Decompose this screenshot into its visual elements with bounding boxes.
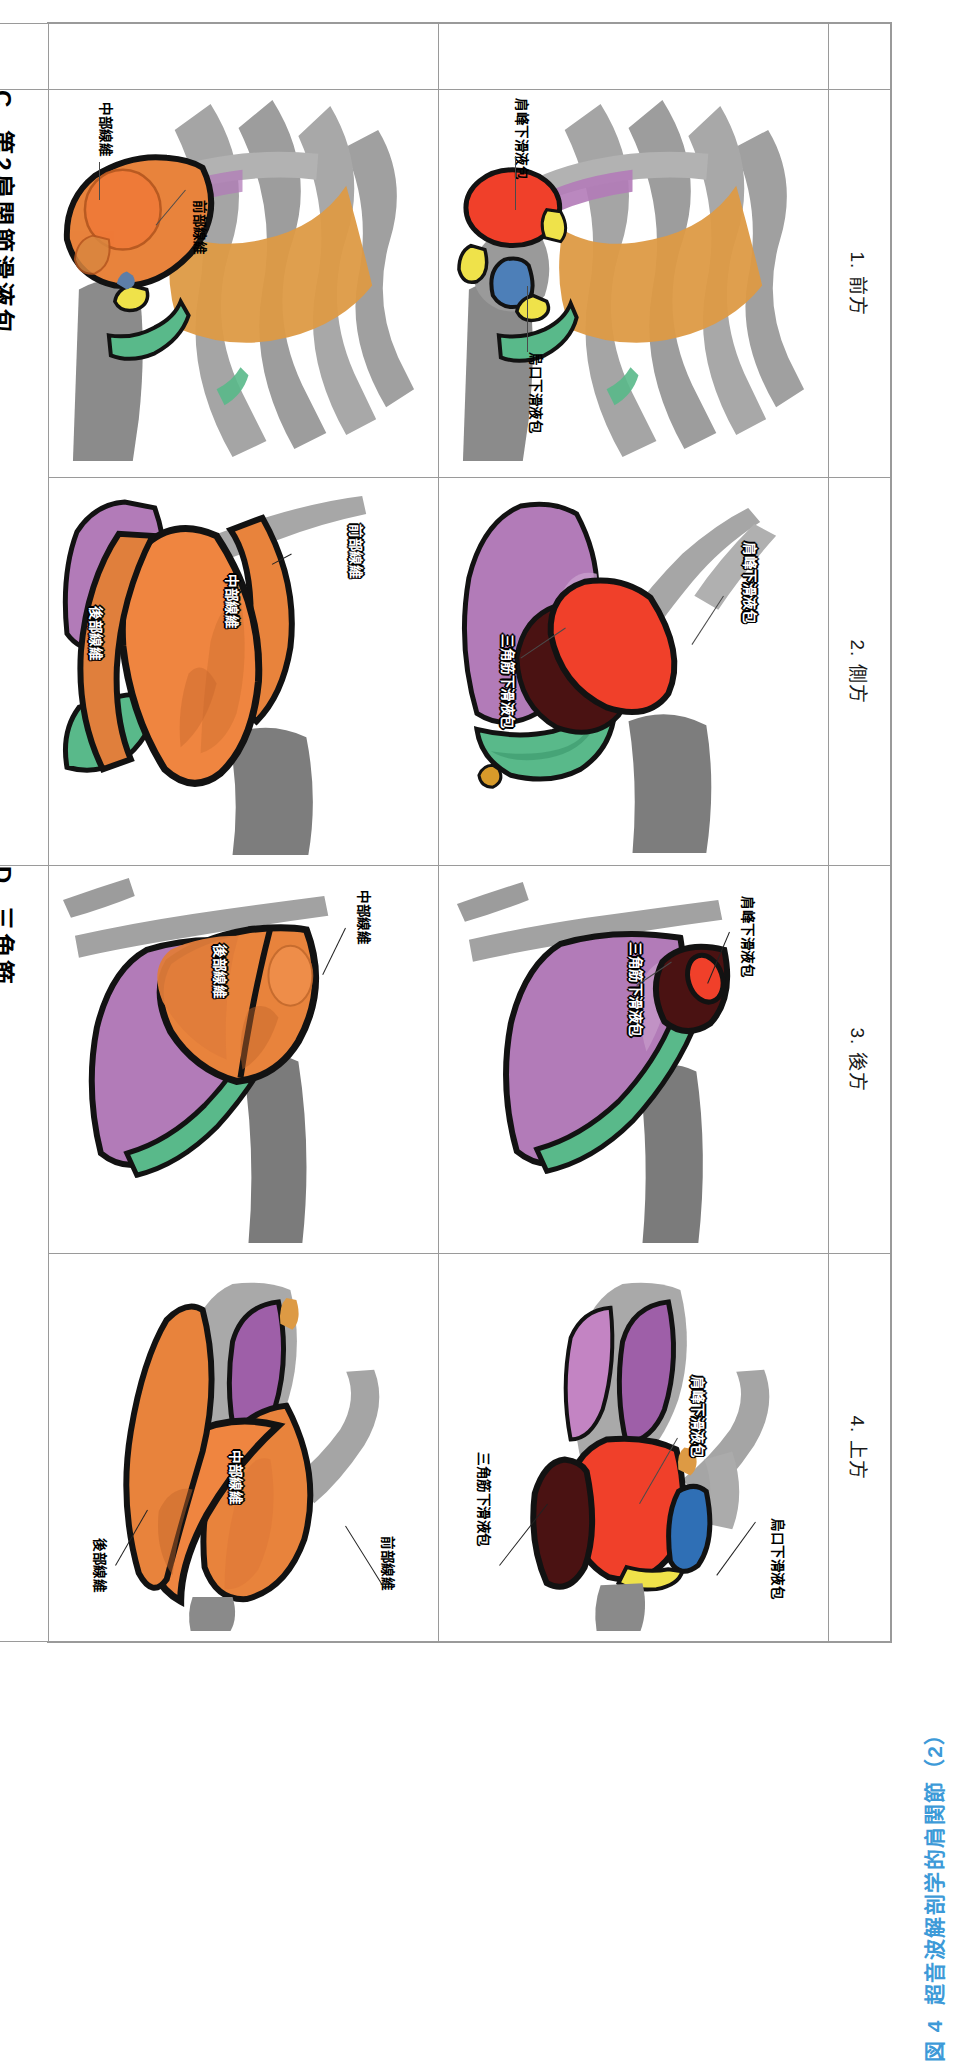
- anatomy-illustration-d4: [49, 1254, 438, 1641]
- row-header-c-label: 第2肩関節滑液包: [0, 130, 16, 335]
- figure-caption-number: 図 4: [923, 2019, 946, 2062]
- panel-d1-art: [49, 90, 438, 477]
- anatomy-illustration-c4: [439, 1254, 828, 1641]
- corner-cell: [829, 24, 891, 90]
- panel-c2: 肩峰下滑液包 三角筋下滑液包: [439, 478, 829, 866]
- column-header-view-4: 4. 上方: [829, 1254, 891, 1642]
- panel-d4-art: [49, 1254, 438, 1641]
- panel-d2: 前部線維 中部線維 後部線維: [49, 478, 439, 866]
- column-header-row: 1. 前方 2. 側方 3. 後方 4. 上方: [829, 24, 891, 1642]
- panel-d4: 前部線維 中部線維 後部線維: [49, 1254, 439, 1642]
- anatomy-illustration-c2: [439, 478, 828, 865]
- row-header-c-letter: C: [0, 90, 16, 110]
- anatomy-illustration-c1: [439, 90, 828, 477]
- panel-c4-art: [439, 1254, 828, 1641]
- row-header-d-label: 三角筋: [0, 906, 16, 987]
- row-header-d-letter: D: [0, 866, 16, 886]
- row-header-d: D三角筋: [0, 866, 49, 1642]
- panel-c3-art: [439, 866, 828, 1253]
- figure-caption: 図 4超音波解剖学的肩関節（2）: [918, 1722, 948, 2062]
- group-label-corner: [0, 24, 49, 90]
- panel-d1: 前部線維 中部線維: [49, 90, 439, 478]
- figure-table: 1. 前方 2. 側方 3. 後方 4. 上方: [47, 22, 892, 1643]
- column-header-view-1: 1. 前方: [829, 90, 891, 478]
- anatomy-illustration-d3: [49, 866, 438, 1253]
- row-header-c: C第2肩関節滑液包: [0, 90, 49, 866]
- figure-caption-text: 超音波解剖学的肩関節（2）: [923, 1722, 946, 2005]
- anatomy-illustration-c3: [439, 866, 828, 1253]
- group-label-row: C第2肩関節滑液包 D三角筋: [0, 24, 49, 1642]
- panel-d2-art: [49, 478, 438, 865]
- panel-c4: 肩峰下滑液包 烏口下滑液包 三角筋下滑液包: [439, 1254, 829, 1642]
- column-header-view-3: 3. 後方: [829, 866, 891, 1254]
- row-c: 肩峰下滑液包 烏口下滑液包: [439, 24, 829, 1642]
- panel-d3: 中部線維 後部線維: [49, 866, 439, 1254]
- anatomy-illustration-d1: [49, 90, 438, 477]
- column-header-view-2: 2. 側方: [829, 478, 891, 866]
- panel-grid: 1. 前方 2. 側方 3. 後方 4. 上方: [0, 23, 891, 1642]
- panel-c1-art: [439, 90, 828, 477]
- panel-d3-art: [49, 866, 438, 1253]
- anatomy-illustration-d2: [49, 478, 438, 865]
- row-header-d-spacer: [49, 24, 439, 90]
- row-d: 前部線維 中部線維: [49, 24, 439, 1642]
- panel-c2-art: [439, 478, 828, 865]
- panel-c1: 肩峰下滑液包 烏口下滑液包: [439, 90, 829, 478]
- panel-c3: 肩峰下滑液包 三角筋下滑液包: [439, 866, 829, 1254]
- row-header-c-spacer: [439, 24, 829, 90]
